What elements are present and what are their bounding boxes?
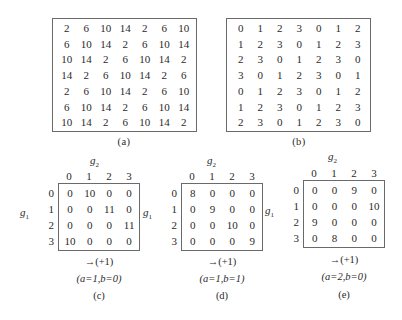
matrix-cell: 1 [231, 100, 251, 116]
matrix-cell: 10 [60, 233, 80, 249]
matrix-row: 2610142610 [57, 21, 194, 37]
matrix-cell: 0 [60, 201, 80, 217]
panel-d-row-axis: g1 [143, 206, 152, 221]
matrix-cell: 6 [174, 68, 194, 84]
panel-c-direction: →(+1) [54, 256, 144, 267]
matrix-cell: 6 [96, 68, 116, 84]
matrix-cell: 10 [135, 52, 155, 68]
panel-e-row-axis: g1 [265, 204, 274, 219]
matrix-cell: 6 [77, 21, 97, 37]
matrix-cell: 9 [344, 182, 364, 198]
matrix-cell: 14 [57, 68, 77, 84]
matrix-cell: 0 [80, 217, 100, 233]
panel-c-label: (c) [54, 290, 144, 301]
matrix-cell: 9 [242, 233, 262, 249]
matrix-cell: 2 [96, 52, 116, 68]
matrix-a-table: 2610142610610142610141014261014214261014… [57, 21, 194, 131]
matrix-cell: 0 [80, 201, 100, 217]
panel-b-label: (b) [269, 136, 329, 147]
matrix-cell: 1 [290, 52, 310, 68]
matrix-cell: 0 [325, 182, 345, 198]
matrix-cell: 3 [251, 52, 271, 68]
matrix-row: 61014261014 [57, 100, 194, 116]
matrix-cell: 3 [270, 100, 290, 116]
matrix-row: 0123012 [231, 21, 368, 37]
matrix-cell: 6 [116, 52, 136, 68]
matrix-cell: 14 [155, 52, 175, 68]
matrix-cell: 0 [364, 214, 384, 230]
matrix-cell: 6 [135, 100, 155, 116]
matrix-cell: 0 [183, 201, 203, 217]
matrix-cell: 0 [270, 52, 290, 68]
matrix-cell: 0 [80, 233, 100, 249]
matrix-cell: 2 [135, 21, 155, 37]
matrix-cell: 1 [309, 100, 329, 116]
matrix-cell: 2 [116, 100, 136, 116]
matrix-cell: 14 [174, 37, 194, 53]
matrix-cell: 0 [203, 233, 223, 249]
matrix-cell: 10 [77, 37, 97, 53]
matrix-cell: 1 [251, 84, 271, 100]
matrix-cell: 2 [231, 115, 251, 131]
matrix-row: 3012301 [231, 68, 368, 84]
panel-d-label: (d) [177, 290, 267, 301]
matrix-b-table: 0123012123012323012303012301012301212301… [231, 21, 368, 131]
matrix-row: 10142610142 [57, 52, 194, 68]
matrix-cell: 3 [348, 37, 368, 53]
matrix-cell: 0 [309, 21, 329, 37]
matrix-cell: 3 [270, 37, 290, 53]
matrix-cell: 6 [155, 84, 175, 100]
matrix-cell: 2 [96, 115, 116, 131]
matrix-cell: 0 [348, 115, 368, 131]
matrix-cell: 0 [183, 217, 203, 233]
matrix-cell: 9 [203, 201, 223, 217]
matrix-cell: 10 [155, 100, 175, 116]
matrix-c-table: 01000001100001110000 [60, 185, 139, 249]
matrix-cell: 0 [344, 198, 364, 214]
matrix-cell: 0 [203, 185, 223, 201]
matrix-d: 80000900001000009 [181, 183, 263, 251]
matrix-cell: 0 [119, 233, 139, 249]
matrix-cell: 0 [251, 68, 271, 84]
matrix-cell: 6 [116, 115, 136, 131]
matrix-cell: 0 [309, 84, 329, 100]
matrix-cell: 1 [251, 21, 271, 37]
matrix-cell: 10 [116, 68, 136, 84]
matrix-a: 2610142610610142610141014261014214261014… [52, 18, 197, 132]
panel-d-params: (a=1,b=1) [177, 273, 267, 284]
matrix-cell: 14 [96, 37, 116, 53]
matrix-cell: 10 [174, 21, 194, 37]
matrix-cell: 8 [325, 230, 345, 246]
matrix-cell: 1 [309, 37, 329, 53]
matrix-cell: 2 [251, 100, 271, 116]
matrix-cell: 0 [242, 217, 262, 233]
panel-c-params: (a=1,b=0) [54, 273, 144, 284]
matrix-cell: 14 [116, 84, 136, 100]
matrix-cell: 1 [329, 21, 349, 37]
panel-e-direction: →(+1) [299, 254, 389, 265]
matrix-cell: 0 [242, 185, 262, 201]
matrix-cell: 11 [119, 217, 139, 233]
matrix-cell: 2 [231, 52, 251, 68]
matrix-cell: 2 [251, 37, 271, 53]
matrix-cell: 14 [96, 100, 116, 116]
matrix-row: 00010 [305, 198, 384, 214]
matrix-cell: 2 [116, 37, 136, 53]
matrix-cell: 3 [329, 115, 349, 131]
matrix-cell: 0 [222, 233, 242, 249]
matrix-row: 01000 [60, 185, 139, 201]
matrix-cell: 0 [344, 230, 364, 246]
matrix-cell: 1 [290, 115, 310, 131]
matrix-cell: 0 [305, 198, 325, 214]
matrix-row: 1426101426 [57, 68, 194, 84]
matrix-cell: 0 [119, 185, 139, 201]
matrix-row: 10000 [60, 233, 139, 249]
matrix-cell: 0 [325, 198, 345, 214]
matrix-cell: 10 [364, 198, 384, 214]
matrix-cell: 2 [270, 84, 290, 100]
matrix-cell: 1 [329, 84, 349, 100]
matrix-row: 2610142610 [57, 84, 194, 100]
panel-c-col-axis: g2 [90, 154, 99, 169]
matrix-cell: 10 [57, 52, 77, 68]
matrix-cell: 2 [155, 68, 175, 84]
